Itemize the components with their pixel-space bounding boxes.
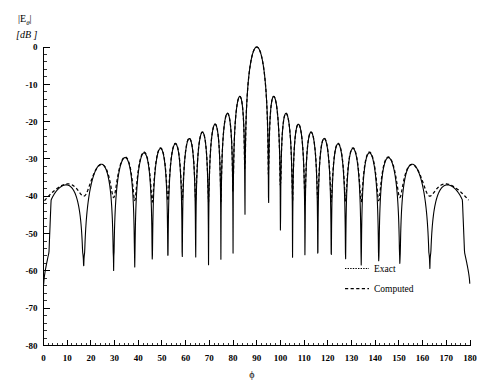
y-axis-tick-label: -70 [26, 303, 38, 313]
x-axis-tick-label: 10 [63, 353, 73, 363]
x-axis-tick-label: 110 [298, 353, 312, 363]
x-axis-tick-label: 30 [110, 353, 120, 363]
x-axis-label-phi: ϕ [249, 369, 254, 380]
legend-label-exact: Exact [374, 264, 396, 274]
x-axis-tick-label: 140 [368, 353, 382, 363]
y-axis-tick-label: -30 [26, 154, 38, 164]
y-axis-label-units: [dB ] [16, 29, 38, 40]
x-axis-tick-label: 70 [205, 353, 215, 363]
x-axis-tick-label: 100 [274, 353, 288, 363]
y-axis-tick-label: -50 [26, 229, 38, 239]
x-axis-tick-label: 120 [321, 353, 335, 363]
y-axis-ticks: 0-10-20-30-40-50-60-70-80 [26, 42, 50, 351]
x-axis-tick-label: 90 [252, 353, 262, 363]
y-axis-tick-label: -40 [26, 191, 38, 201]
series-exact-line [44, 47, 470, 284]
chart-canvas: |Eθ| [dB ] 0-10-20-30-40-50-60-70-80 010… [0, 0, 499, 390]
y-axis-tick-label: 0 [33, 42, 38, 52]
y-axis-label-magnitude: |Eθ| [18, 13, 32, 27]
x-axis-tick-label: 50 [157, 353, 167, 363]
x-axis-tick-label: 80 [229, 353, 239, 363]
legend: Exact Computed [345, 264, 414, 294]
x-axis-tick-label: 0 [41, 353, 46, 363]
y-axis-tick-label: -10 [26, 80, 38, 90]
legend-label-computed: Computed [374, 284, 414, 294]
radiation-pattern-figure: |Eθ| [dB ] 0-10-20-30-40-50-60-70-80 010… [0, 0, 499, 390]
y-axis-tick-label: -20 [26, 117, 38, 127]
x-axis-tick-label: 40 [134, 353, 144, 363]
x-axis-ticks: 0102030405060708090100110120130140150160… [41, 340, 477, 363]
x-axis-tick-label: 180 [463, 353, 477, 363]
y-axis-tick-label: -80 [26, 341, 38, 351]
y-axis-label-group: |Eθ| [dB ] [16, 13, 38, 40]
x-axis-tick-label: 130 [345, 353, 359, 363]
y-axis-tick-label: -60 [26, 266, 38, 276]
x-axis-tick-label: 60 [181, 353, 191, 363]
x-axis-tick-label: 170 [440, 353, 454, 363]
x-axis-tick-label: 150 [392, 353, 406, 363]
x-axis-tick-label: 20 [86, 353, 96, 363]
x-axis-tick-label: 160 [416, 353, 430, 363]
